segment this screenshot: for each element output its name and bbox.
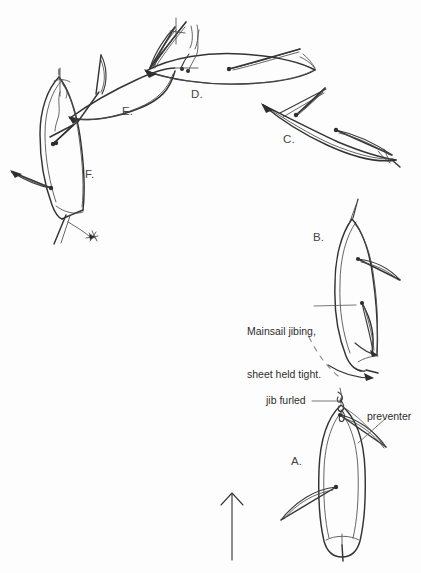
callout-mainsail-jibing-line1: Mainsail jibing, bbox=[247, 324, 321, 338]
wind-direction-arrow bbox=[221, 493, 243, 560]
jibe-sequence-sketch: .ink { fill:none; stroke:#3a3a3a; stroke… bbox=[0, 0, 421, 573]
callout-mainsail-jibing: Mainsail jibing, sheet held tight. bbox=[247, 296, 321, 409]
stage-label-d: D. bbox=[191, 88, 203, 102]
callout-preventer: preventer bbox=[367, 410, 411, 422]
stage-label-b: B. bbox=[313, 231, 324, 245]
boat-f bbox=[10, 68, 98, 244]
stage-label-f: F. bbox=[85, 168, 94, 182]
boat-d bbox=[144, 18, 315, 84]
stage-label-c: C. bbox=[283, 133, 295, 147]
boat-e bbox=[51, 55, 175, 146]
diagram-canvas: .ink { fill:none; stroke:#3a3a3a; stroke… bbox=[0, 0, 421, 573]
stage-label-e: E. bbox=[122, 105, 133, 119]
stage-label-a: A. bbox=[291, 455, 302, 469]
callout-mainsail-jibing-line2: sheet held tight. bbox=[247, 367, 321, 381]
boat-c bbox=[261, 88, 400, 167]
callout-jib-furled: jib furled bbox=[266, 394, 306, 406]
boat-b bbox=[309, 199, 400, 381]
